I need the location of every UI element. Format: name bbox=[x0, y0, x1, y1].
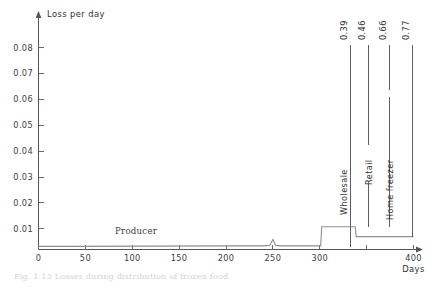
series-line-producer bbox=[39, 227, 414, 247]
x-tick-label: 0 bbox=[36, 253, 42, 263]
annotation-retail: 0.46 Retail bbox=[357, 20, 374, 227]
x-tick-label: 150 bbox=[171, 253, 188, 263]
x-axis-arrowhead bbox=[416, 247, 423, 253]
annotation-value: 0.39 bbox=[339, 20, 349, 40]
y-axis-title: Loss per day bbox=[47, 9, 105, 19]
chart-figure: Loss per day 0.08 0.07 0.06 0.05 0.04 0.… bbox=[0, 0, 440, 287]
y-tick-label: 0.03 bbox=[13, 172, 33, 182]
annotation-value: 0.66 bbox=[378, 20, 388, 40]
x-tick-group: 0 50 100 150 200 250 300 400 bbox=[36, 245, 422, 264]
annotation-label: Retail bbox=[364, 159, 374, 185]
x-tick-label: 400 bbox=[405, 253, 422, 263]
x-tick-label: 300 bbox=[311, 253, 328, 263]
x-tick-label: 250 bbox=[265, 253, 282, 263]
x-tick-label: 100 bbox=[124, 253, 141, 263]
annotation-wholesale: 0.39 Wholesale bbox=[339, 20, 351, 247]
y-tick-label: 0.05 bbox=[13, 120, 33, 130]
figure-caption: Fig. 1.13 Losses during distribution of … bbox=[14, 272, 434, 281]
x-tick-label: 50 bbox=[80, 253, 91, 263]
y-tick-label: 0.08 bbox=[13, 43, 33, 53]
loss-per-day-line-chart: Loss per day 0.08 0.07 0.06 0.05 0.04 0.… bbox=[0, 0, 440, 287]
x-axis bbox=[39, 247, 424, 253]
annotation-home-freezer: 0.66 Home freezer bbox=[378, 20, 395, 227]
y-axis-arrowhead bbox=[36, 11, 42, 18]
annotation-label: Home freezer bbox=[385, 159, 395, 220]
annotation-value: 0.77 bbox=[401, 20, 411, 40]
y-tick-label: 0.02 bbox=[13, 198, 33, 208]
annotation-value: 0.46 bbox=[357, 20, 367, 40]
y-tick-label: 0.01 bbox=[13, 224, 33, 234]
y-tick-label: 0.04 bbox=[13, 146, 33, 156]
y-axis bbox=[36, 11, 42, 250]
annotation-label: Wholesale bbox=[339, 169, 349, 215]
y-tick-label: 0.06 bbox=[13, 94, 33, 104]
annotation-final: 0.77 bbox=[401, 20, 413, 237]
series-label-producer: Producer bbox=[115, 226, 158, 236]
y-tick-label: 0.07 bbox=[13, 68, 33, 78]
x-tick-label: 200 bbox=[218, 253, 235, 263]
